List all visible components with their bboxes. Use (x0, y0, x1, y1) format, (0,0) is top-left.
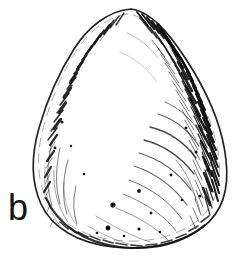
stipple-dot (206, 168, 210, 172)
figure-background (0, 0, 249, 260)
stipple-dot (137, 227, 140, 230)
stipple-dot (195, 151, 198, 154)
stipple-dot (198, 194, 201, 197)
stipple-dot (170, 174, 173, 177)
figure-container: b (0, 0, 249, 260)
stipple-dot (70, 145, 72, 147)
stipple-dot (137, 189, 141, 193)
stipple-dot (110, 202, 115, 207)
stipple-dot (159, 231, 161, 233)
stipple-dot (185, 127, 188, 130)
stipple-dot (83, 173, 85, 175)
stipple-dot (123, 235, 126, 238)
stipple-dot (150, 212, 153, 215)
stipple-dot (61, 121, 64, 124)
stipple-dot (96, 232, 99, 235)
shell-illustration (0, 0, 249, 260)
stipple-dot (181, 199, 184, 202)
stipple-dot (54, 147, 57, 150)
figure-label: b (8, 190, 28, 226)
stipple-dot (106, 226, 111, 231)
